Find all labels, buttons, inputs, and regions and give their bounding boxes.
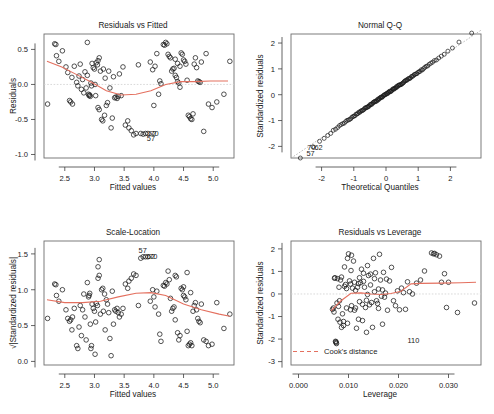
data-point [349, 268, 354, 273]
data-point [173, 273, 178, 278]
data-point [78, 303, 83, 308]
data-point [77, 325, 82, 330]
data-point [155, 51, 160, 56]
data-point [222, 92, 227, 97]
data-point [83, 315, 88, 320]
data-point [101, 309, 106, 314]
data-point [117, 72, 122, 77]
data-point [204, 51, 209, 56]
data-point [167, 277, 172, 282]
y-axis-label: √|Standardized residuals| [9, 257, 18, 349]
outlier-label: 57 [306, 149, 314, 158]
data-point [74, 343, 79, 348]
data-point [175, 330, 180, 335]
data-point [110, 116, 115, 121]
x-tick-label: 5.0 [208, 381, 219, 390]
data-point [54, 293, 59, 298]
data-point [84, 86, 89, 91]
data-point [157, 79, 162, 84]
data-point [199, 302, 204, 307]
y-tick-label: -2 [268, 335, 275, 344]
x-tick-label: 2.5 [60, 381, 71, 390]
x-tick-label: 0.010 [339, 381, 358, 390]
outlier-label: 110 [408, 336, 420, 345]
y-tick-label: 0.0 [17, 80, 28, 89]
outlier-label: 57 [139, 246, 147, 255]
data-point [102, 113, 107, 118]
x-tick-label: -1 [350, 174, 357, 183]
data-point [193, 56, 198, 61]
scale-location-svg: Scale-Location Fitted values √|Standardi… [0, 207, 247, 414]
data-point [45, 102, 50, 107]
data-point [381, 270, 386, 275]
data-point [166, 269, 171, 274]
data-point [361, 271, 366, 276]
data-point [57, 59, 62, 64]
data-point [152, 295, 157, 300]
data-point [91, 306, 96, 311]
data-point [155, 289, 160, 294]
x-axis-label: Theoretical Quantiles [341, 183, 418, 192]
data-point [182, 59, 187, 64]
data-point [70, 328, 75, 333]
chart-title: Residuals vs Leverage [339, 228, 422, 237]
y-tick-label: 0 [271, 91, 275, 100]
data-point [100, 286, 105, 291]
data-point [470, 31, 474, 35]
data-point [178, 85, 183, 90]
outlier-label: 70 [149, 252, 157, 261]
data-point [121, 306, 126, 311]
data-point [185, 270, 190, 275]
y-axis-label: Standardized residuals [256, 54, 265, 137]
y-tick-label: 0 [271, 290, 275, 299]
data-point [125, 286, 130, 291]
data-point [152, 103, 157, 108]
data-point [121, 65, 126, 70]
data-point [184, 62, 189, 67]
data-point [105, 100, 110, 105]
data-point [457, 40, 461, 44]
x-axis-label: Leverage [363, 390, 398, 399]
data-point [98, 312, 103, 317]
data-point [345, 256, 350, 261]
data-point [85, 40, 90, 45]
data-point [54, 53, 59, 58]
data-point [60, 287, 65, 292]
residuals-vs-fitted-svg: Residuals vs Fitted Fitted values Residu… [0, 0, 247, 207]
data-point [136, 63, 141, 68]
data-point [397, 307, 402, 312]
data-point [176, 338, 181, 343]
data-point [45, 316, 50, 321]
y-tick-label: 2 [271, 245, 275, 254]
panel-residuals-vs-fitted: Residuals vs Fitted Fitted values Residu… [0, 0, 247, 207]
data-point [368, 283, 373, 288]
data-point [80, 308, 85, 313]
x-tick-label: 3.5 [119, 174, 130, 183]
data-point [347, 279, 352, 284]
data-point [93, 93, 98, 98]
chart-title: Normal Q-Q [358, 21, 402, 30]
data-point [181, 58, 186, 63]
data-point [472, 301, 477, 306]
x-tick-label: 4.0 [149, 174, 160, 183]
data-point [99, 287, 104, 292]
data-point [191, 112, 196, 117]
data-point [199, 60, 204, 65]
data-point [364, 298, 369, 303]
x-tick-label: 2 [448, 174, 452, 183]
data-point [84, 338, 89, 343]
outlier-label: 70 [150, 129, 158, 138]
data-point [159, 339, 164, 344]
data-point [96, 276, 101, 281]
data-point [156, 312, 161, 317]
x-tick-label: 4.5 [178, 174, 189, 183]
data-point [78, 62, 83, 67]
data-point [357, 275, 362, 280]
x-tick-label: 5.0 [208, 174, 219, 183]
data-point [210, 105, 215, 110]
data-point [148, 60, 153, 65]
data-point [372, 289, 377, 294]
y-tick-label: -1.0 [15, 150, 28, 159]
data-point [405, 280, 410, 285]
data-point [393, 303, 398, 308]
